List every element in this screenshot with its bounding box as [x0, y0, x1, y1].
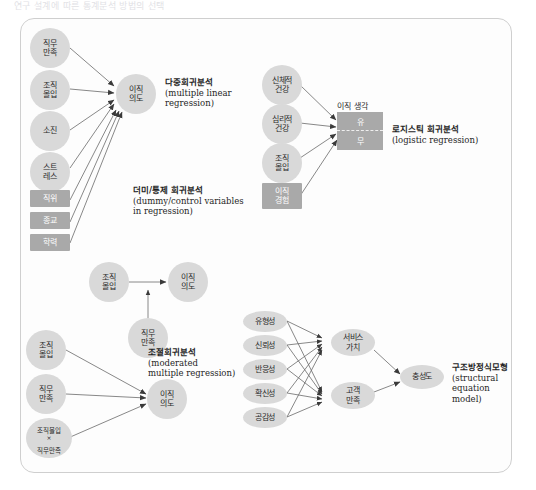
caption-structural-equation-model: 구조방정식모형 (structural equation model) [452, 362, 536, 405]
node-turnover-experience[interactable]: 이직 경험 [262, 183, 302, 209]
node-assurance[interactable]: 확신성 [243, 383, 287, 404]
caption-en: (multiple linear regression) [165, 88, 232, 109]
node-responsiveness[interactable]: 반응성 [243, 359, 287, 380]
node-position[interactable]: 직위 [30, 190, 70, 207]
caption-ko: 로지스틱 회귀분석 [392, 124, 478, 135]
caption-ko: 구조방정식모형 [452, 362, 536, 373]
node-job-satisfaction-exp[interactable]: 직무 만족 [26, 374, 66, 414]
node-religion[interactable]: 종교 [30, 212, 70, 229]
node-psychological-health[interactable]: 심리적 건강 [262, 104, 302, 144]
node-burnout[interactable]: 소진 [30, 111, 70, 151]
page-header-strip: 연구 설계에 따른 통계분석 방법의 선택 [14, 1, 244, 11]
node-org-commitment[interactable]: 조직 몰입 [30, 70, 70, 110]
caption-multiple-linear-regression: 다중회귀분석 (multiple linear regression) [165, 77, 232, 109]
node-turnover-intention-mlr[interactable]: 이직 의도 [116, 74, 156, 114]
label-turnover-thought: 이직 생각 [337, 100, 368, 111]
node-service-value[interactable]: 서비스 가치 [331, 329, 375, 356]
node-org-commitment-exp[interactable]: 조직 몰입 [26, 330, 66, 370]
caption-moderated-multiple-regression: 조절회귀분석 (moderated multiple regression) [148, 347, 235, 379]
node-reliability[interactable]: 신뢰성 [243, 335, 287, 356]
interaction-second: 직무만족 [37, 447, 60, 455]
node-turnover-intention-exp[interactable]: 이직 의도 [147, 379, 187, 419]
caption-en: (moderated multiple regression) [148, 358, 235, 379]
node-org-commitment-logit[interactable]: 조직 몰입 [262, 143, 302, 183]
node-turnover-intention-mod[interactable]: 이직 의도 [168, 262, 208, 302]
interaction-operator: × [37, 435, 60, 441]
node-turnover-thought-binary[interactable]: 유 무 [337, 112, 383, 150]
caption-en: (structural equation model) [452, 373, 536, 405]
node-loyalty[interactable]: 충성도 [400, 365, 444, 389]
caption-ko: 다중회귀분석 [165, 77, 232, 88]
caption-en: (logistic regression) [392, 135, 478, 146]
caption-logistic-regression: 로지스틱 회귀분석 (logistic regression) [392, 124, 478, 145]
caption-ko: 더미/통제 회귀분석 [133, 185, 244, 196]
node-education[interactable]: 학력 [30, 234, 70, 251]
node-customer-satisfaction[interactable]: 고객 만족 [331, 382, 375, 409]
caption-dummy-control-regression: 더미/통제 회귀분석 (dummy/control variables in r… [133, 185, 244, 217]
node-org-commitment-mod[interactable]: 조직 몰입 [89, 262, 129, 302]
node-empathy[interactable]: 공감성 [243, 407, 287, 428]
node-tangibles[interactable]: 유형성 [243, 311, 287, 332]
node-interaction-term[interactable]: 조직몰입 × 직무만족 [26, 418, 72, 458]
node-job-satisfaction[interactable]: 직무 만족 [30, 28, 70, 68]
caption-en: (dummy/control variables in regression) [133, 196, 244, 217]
node-stress[interactable]: 스트 레스 [30, 152, 70, 192]
figure-root: 연구 설계에 따른 통계분석 방법의 선택 [0, 0, 536, 490]
level-no: 무 [337, 131, 383, 150]
node-physical-health[interactable]: 신체적 건강 [262, 65, 302, 105]
caption-ko: 조절회귀분석 [148, 347, 235, 358]
level-yes: 유 [337, 112, 383, 131]
